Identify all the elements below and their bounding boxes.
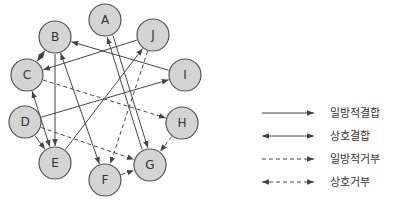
legend-label: 일방적결합	[330, 106, 380, 120]
edge-H-G	[160, 137, 171, 152]
edge-D-E	[35, 136, 45, 150]
node-J: J	[137, 19, 169, 51]
node-E: E	[39, 147, 71, 179]
node-C: C	[11, 59, 43, 91]
node-label: A	[101, 13, 110, 27]
node-label: J	[150, 28, 155, 42]
sociogram: AJBCIDHEGF 일방적결합상호결합일방적거부상호거부	[0, 0, 393, 200]
legend-label: 상호결합	[330, 130, 370, 143]
edge-G-A	[107, 37, 142, 150]
node-F: F	[89, 164, 121, 196]
edge-B-C	[37, 51, 45, 62]
node-label: F	[102, 173, 109, 187]
node-I: I	[169, 59, 201, 91]
node-label: E	[51, 156, 59, 170]
edge-A-G	[113, 35, 148, 148]
legend-label: 일방적거부	[330, 152, 380, 166]
node-label: I	[183, 68, 187, 82]
node-D: D	[9, 106, 41, 138]
node-label: G	[145, 158, 154, 172]
node-label: B	[51, 30, 59, 44]
node-label: D	[20, 115, 29, 129]
node-A: A	[89, 4, 121, 36]
edge-F-G	[121, 170, 134, 174]
legend: 일방적결합상호결합일방적거부상호거부	[262, 106, 380, 189]
node-B: B	[39, 21, 71, 53]
nodes: AJBCIDHEGF	[9, 4, 201, 196]
node-label: C	[23, 68, 31, 82]
node-G: G	[134, 149, 166, 181]
legend-label: 상호거부	[330, 176, 370, 189]
node-H: H	[166, 107, 198, 139]
node-label: H	[177, 116, 186, 130]
edge-J-F	[110, 51, 147, 164]
